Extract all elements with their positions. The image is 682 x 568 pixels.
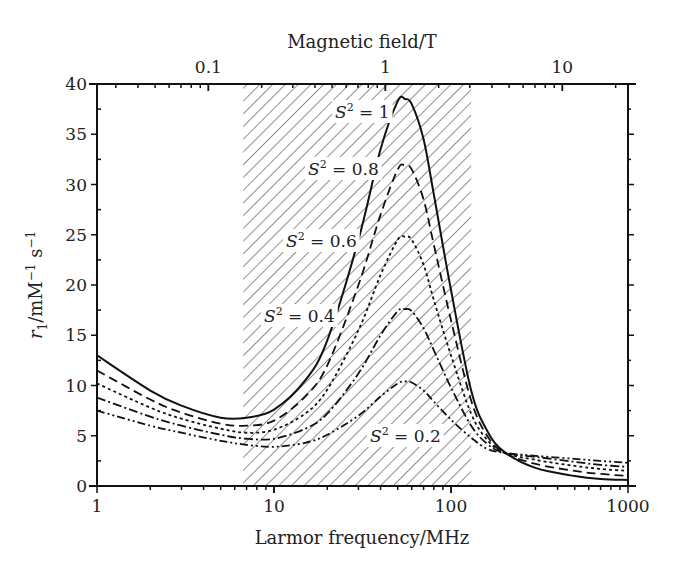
y-tick-label: 15	[65, 325, 87, 345]
curve-label: S2 = 0.6	[283, 229, 360, 252]
svg-text:S2 = 1: S2 = 1	[335, 101, 390, 122]
y-tick-label: 0	[76, 476, 87, 496]
x-tick-label: 10	[263, 496, 285, 516]
curve-label: S2 = 0.4	[261, 304, 338, 327]
curve-label: S2 = 1	[332, 100, 393, 123]
x2-tick-label: 10	[552, 57, 574, 77]
x2-tick-label: 1	[380, 57, 391, 77]
svg-text:S2 = 0.6: S2 = 0.6	[286, 230, 357, 251]
y-tick-label: 40	[65, 74, 87, 94]
y-axis-label: r1/mM−1 s−1	[24, 231, 50, 339]
y-tick-label: 5	[76, 426, 87, 446]
x-tick-label: 100	[435, 496, 467, 516]
y-tick-label: 30	[65, 175, 87, 195]
x-axis-label: Larmor frequency/MHz	[255, 527, 470, 548]
y-tick-label: 35	[65, 124, 87, 144]
y-tick-label: 20	[65, 275, 87, 295]
top-axis-label: Magnetic field/T	[287, 31, 437, 52]
curve-label: S2 = 0.2	[367, 424, 444, 447]
svg-text:S2 = 0.2: S2 = 0.2	[370, 425, 441, 446]
y-tick-label: 25	[65, 225, 87, 245]
x-tick-label: 1	[92, 496, 103, 516]
y-tick-label: 10	[65, 376, 87, 396]
svg-text:S2 = 0.8: S2 = 0.8	[308, 158, 379, 179]
x2-tick-label: 0.1	[195, 57, 222, 77]
svg-text:S2 = 0.4: S2 = 0.4	[264, 305, 335, 326]
curve-label: S2 = 0.8	[305, 157, 382, 180]
x-tick-label: 1000	[606, 496, 649, 516]
relaxivity-chart: S2 = 1S2 = 0.8S2 = 0.6S2 = 0.4S2 = 0.2 0…	[0, 0, 682, 568]
